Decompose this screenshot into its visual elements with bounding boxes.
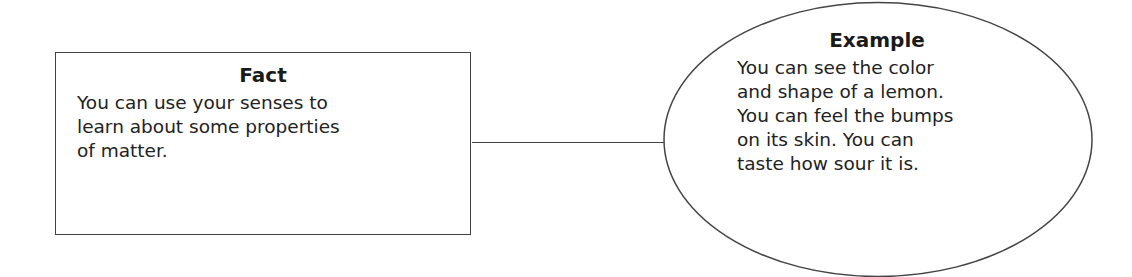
example-line: You can feel the bumps	[737, 104, 1077, 128]
example-body: You can see the color and shape of a lem…	[737, 56, 1077, 176]
fact-line: learn about some properties	[77, 115, 467, 139]
connector-line	[472, 142, 664, 143]
fact-body: You can use your senses to learn about s…	[77, 91, 467, 163]
example-line: and shape of a lemon.	[737, 80, 1077, 104]
example-title: Example	[738, 28, 1016, 52]
example-line: on its skin. You can	[737, 128, 1077, 152]
example-line: taste how sour it is.	[737, 152, 1077, 176]
example-line: You can see the color	[737, 56, 1077, 80]
fact-line: You can use your senses to	[77, 91, 467, 115]
fact-box: Fact You can use your senses to learn ab…	[55, 52, 471, 235]
fact-line: of matter.	[77, 139, 467, 163]
fact-title: Fact	[56, 63, 470, 87]
